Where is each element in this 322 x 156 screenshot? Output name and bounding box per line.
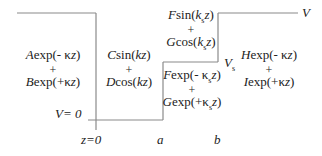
label-v-top: V xyxy=(302,6,310,19)
region-4-equation: Hexp(- κz) + Iexp(+κz) xyxy=(232,48,306,91)
label-a: a xyxy=(157,133,164,146)
label-z-zero: z=0 xyxy=(81,133,101,146)
label-b: b xyxy=(214,133,221,146)
label-v-zero: V= 0 xyxy=(55,107,81,120)
region-3-upper-equation: Fsin(ksz) + Gcos(ksz) xyxy=(162,8,220,51)
region-1-equation: Aexp(- κz) + Bexp(+κz) xyxy=(14,48,92,91)
region-2-equation: Csin(kz) + Dcos(kz) xyxy=(98,48,160,91)
label-v-s: Vs xyxy=(224,56,235,73)
region-3-lower-equation: Fexp(- κsz) + Gexp(+κsz) xyxy=(162,68,222,111)
